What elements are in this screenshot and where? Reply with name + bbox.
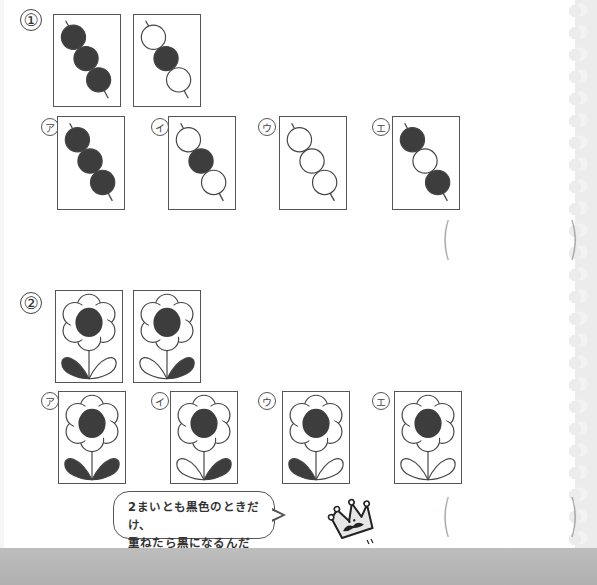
hint-speech-bubble: 2まいとも黒色のときだけ、 重ねたら黒になるんだね。 bbox=[113, 491, 275, 539]
q1-answer-paren-close: ) bbox=[569, 213, 578, 264]
q2-option-i-label[interactable]: イ bbox=[151, 392, 169, 410]
question-1-number: ① bbox=[20, 9, 42, 31]
q1-option-e-card[interactable] bbox=[392, 116, 460, 210]
q2-given-card-2 bbox=[133, 290, 201, 383]
crown-mustache-icon bbox=[327, 494, 377, 546]
page-left-edge bbox=[0, 0, 4, 548]
question-2-number: ② bbox=[20, 292, 42, 314]
q1-option-i-label[interactable]: イ bbox=[151, 118, 169, 136]
q1-option-e-label[interactable]: エ bbox=[372, 118, 390, 136]
page-footer-bar bbox=[0, 548, 597, 585]
q2-answer-field[interactable] bbox=[460, 495, 565, 537]
q1-option-a-card[interactable] bbox=[57, 116, 125, 210]
q2-option-i-card[interactable] bbox=[170, 391, 238, 484]
q1-given-card-2 bbox=[133, 14, 201, 107]
flower-icon bbox=[56, 291, 122, 382]
flower-icon bbox=[59, 392, 125, 483]
dango-icon bbox=[280, 117, 346, 209]
flower-icon bbox=[283, 392, 349, 483]
flower-icon bbox=[395, 392, 461, 483]
hint-line-1: 2まいとも黒色のときだけ、 bbox=[128, 498, 274, 534]
dango-icon bbox=[169, 117, 235, 209]
dango-icon bbox=[58, 117, 124, 209]
q2-option-e-label[interactable]: エ bbox=[372, 392, 390, 410]
q1-option-u-label[interactable]: ウ bbox=[258, 118, 276, 136]
q1-given-card-1 bbox=[53, 14, 121, 107]
q2-answer-paren-open: ( bbox=[442, 490, 451, 541]
page-right-edge-decoration bbox=[575, 0, 597, 548]
q1-option-i-card[interactable] bbox=[168, 116, 236, 210]
dango-icon bbox=[393, 117, 459, 209]
q2-option-u-card[interactable] bbox=[282, 391, 350, 484]
q2-option-a-label[interactable]: ア bbox=[41, 392, 59, 410]
q2-option-u-label[interactable]: ウ bbox=[258, 392, 276, 410]
flower-icon bbox=[171, 392, 237, 483]
q1-option-u-card[interactable] bbox=[279, 116, 347, 210]
q1-answer-paren-open: ( bbox=[442, 213, 451, 264]
dango-icon bbox=[134, 15, 200, 106]
q2-option-a-card[interactable] bbox=[58, 391, 126, 484]
q2-answer-paren-close: ) bbox=[569, 490, 578, 541]
q1-answer-field[interactable] bbox=[460, 218, 565, 260]
dango-icon bbox=[54, 15, 120, 106]
q2-given-card-1 bbox=[55, 290, 123, 383]
q2-option-e-card[interactable] bbox=[394, 391, 462, 484]
speech-bubble-tail bbox=[272, 508, 286, 522]
flower-icon bbox=[134, 291, 200, 382]
